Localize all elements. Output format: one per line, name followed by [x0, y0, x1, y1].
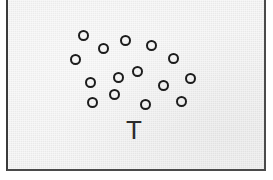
scatter-point-marker	[146, 40, 157, 51]
right-margin	[266, 0, 273, 180]
scatter-point-marker	[185, 73, 196, 84]
scatter-point-marker	[70, 54, 81, 65]
scatter-point-marker	[113, 72, 124, 83]
scatter-point-marker	[168, 53, 179, 64]
scatter-point-marker	[176, 96, 187, 107]
scatter-point-marker	[120, 35, 131, 46]
scatter-point-marker	[140, 99, 151, 110]
bottom-margin	[0, 171, 273, 180]
scatter-point-marker	[98, 43, 109, 54]
scatter-point-marker	[87, 97, 98, 108]
scatter-panel: T	[6, 0, 266, 171]
scatter-point-marker	[132, 66, 143, 77]
scatter-point-marker	[85, 77, 96, 88]
panel-letter-label: T	[114, 117, 154, 143]
scatter-point-marker	[158, 80, 169, 91]
left-margin	[0, 0, 6, 180]
scatter-point-marker	[109, 89, 120, 100]
figure-root: T	[0, 0, 273, 180]
scatter-point-marker	[78, 30, 89, 41]
